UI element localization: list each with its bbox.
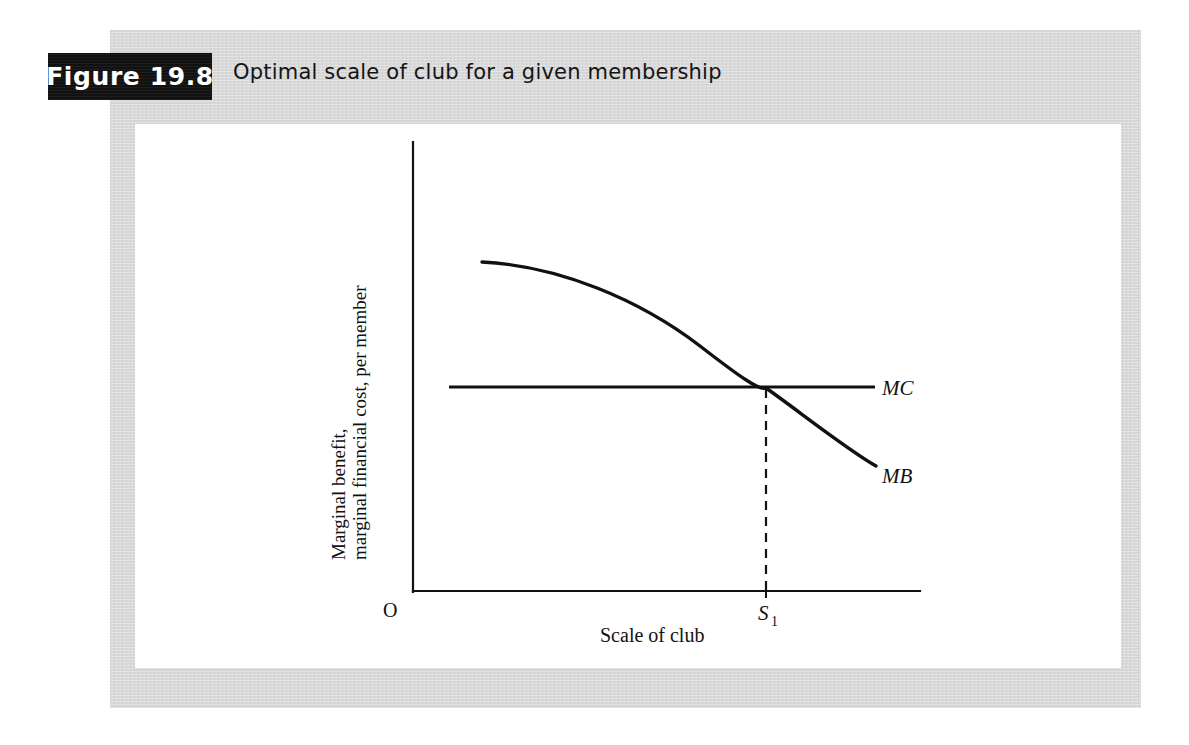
x-axis-title: Scale of club bbox=[600, 624, 704, 646]
figure-caption: Optimal scale of club for a given member… bbox=[233, 60, 722, 84]
y-axis-title-line1: Marginal benefit, bbox=[328, 428, 349, 560]
figure-root: Figure 19.8 Optimal scale of club for a … bbox=[0, 0, 1189, 745]
mb-curve-label: MB bbox=[881, 464, 912, 488]
y-axis-title-line2: marginal financial cost, per member bbox=[349, 285, 370, 560]
x-tick-label-s-subscript: 1 bbox=[771, 614, 778, 629]
origin-label: O bbox=[383, 599, 397, 621]
x-tick-label-s: S bbox=[758, 601, 769, 625]
figure-white-plot-panel bbox=[135, 124, 1121, 668]
figure-number-tab: Figure 19.8 bbox=[48, 53, 212, 100]
figure-number-label: Figure 19.8 bbox=[46, 62, 214, 91]
mc-curve-label: MC bbox=[881, 376, 914, 400]
